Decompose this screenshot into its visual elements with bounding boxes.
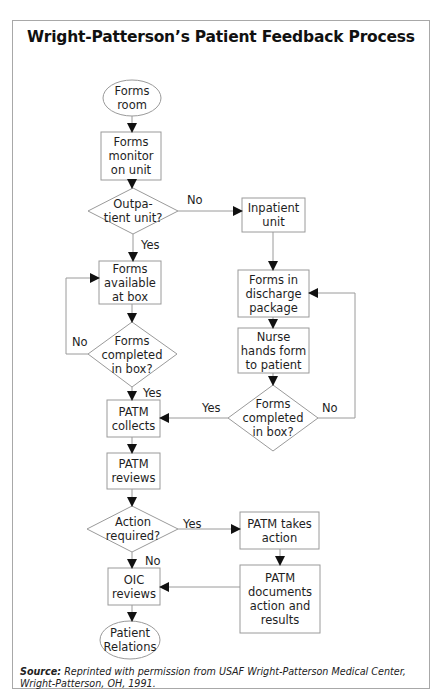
label-patient-relations: Patient Relations: [100, 621, 160, 659]
source-label: Source:: [20, 666, 61, 677]
label-forms-monitor: Forms monitor on unit: [101, 132, 161, 180]
label-forms-room: Forms room: [103, 80, 161, 116]
edge-label-left-no: No: [72, 336, 88, 349]
edge-completed-right-no: [309, 293, 355, 418]
edge-label-outpatient-yes: Yes: [141, 239, 160, 252]
label-inpatient-unit: Inpatient unit: [242, 198, 305, 232]
source-note: Source: Reprinted with permission from U…: [20, 666, 420, 690]
edge-label-right-no: No: [322, 402, 338, 415]
edge-label-left-yes: Yes: [143, 387, 162, 400]
label-forms-available: Forms available at box: [99, 261, 161, 304]
flowchart: [0, 0, 446, 698]
label-oic-reviews: OIC reviews: [108, 568, 160, 605]
label-nurse-hands: Nurse hands form to patient: [238, 328, 309, 373]
edge-label-right-yes: Yes: [202, 402, 221, 415]
edge-label-action-no: No: [145, 555, 161, 568]
label-patm-reviews: PATM reviews: [107, 453, 160, 489]
label-patm-documents: PATM documents action and results: [244, 565, 316, 633]
label-outpatient-decision: Outpa- tient unit?: [103, 196, 163, 226]
source-text: Reprinted with permission from USAF Wrig…: [20, 666, 406, 689]
label-action-required: Action required?: [100, 514, 166, 544]
label-forms-discharge: Forms in discharge package: [238, 270, 309, 317]
label-patm-collects: PATM collects: [107, 400, 160, 437]
label-patm-takes-action: PATM takes action: [240, 512, 319, 549]
edge-label-action-yes: Yes: [183, 518, 202, 531]
edge-label-outpatient-no: No: [187, 194, 203, 207]
label-forms-completed-left: Forms completed in box?: [96, 332, 168, 378]
label-forms-completed-right: Forms completed in box?: [237, 395, 309, 441]
